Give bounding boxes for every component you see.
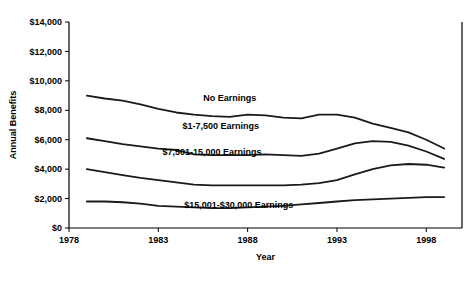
y-tick-label: $6,000 <box>34 135 62 145</box>
series-label-no-earnings: No Earnings <box>203 93 256 103</box>
y-axis-title: Annual Benefits <box>8 91 18 160</box>
series-label-1-7-500-earnings: $1-7,500 Earnings <box>183 121 260 131</box>
series-label-15-001-30-000-earnings: $15,001-$30,000 Earnings <box>184 200 293 210</box>
x-tick-label: 1983 <box>148 235 168 245</box>
x-tick-label: 1988 <box>238 235 258 245</box>
x-tick-label: 1993 <box>327 235 347 245</box>
figure-caption <box>22 272 452 282</box>
x-axis-title: Year <box>256 252 276 262</box>
x-tick-label: 1978 <box>59 235 79 245</box>
series-label-7-501-15-000-earnings: $7,501-15,000 Earnings <box>162 147 261 157</box>
x-tick-label: 1998 <box>416 235 436 245</box>
line-chart: $0$2,000$4,000$6,000$8,000$10,000$12,000… <box>0 0 471 282</box>
y-tick-label: $8,000 <box>34 105 62 115</box>
y-tick-label: $14,000 <box>29 17 62 27</box>
y-tick-label: $0 <box>52 223 62 233</box>
series-line-no-earnings <box>87 96 444 149</box>
y-tick-label: $2,000 <box>34 194 62 204</box>
y-tick-label: $10,000 <box>29 76 62 86</box>
series-line-7-501-15-000-earnings <box>87 164 444 185</box>
y-tick-label: $12,000 <box>29 47 62 57</box>
series-line-1-7-500-earnings <box>87 138 444 159</box>
chart-figure: $0$2,000$4,000$6,000$8,000$10,000$12,000… <box>0 0 471 282</box>
y-tick-label: $4,000 <box>34 164 62 174</box>
